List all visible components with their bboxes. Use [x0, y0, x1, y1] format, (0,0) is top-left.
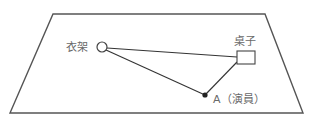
coat-rack-marker — [97, 42, 107, 52]
table-marker — [237, 51, 255, 64]
coat-rack-label: 衣架 — [66, 40, 88, 54]
actor-label: A（演員） — [213, 92, 265, 106]
stage-diagram: 衣架 桌子 A（演員） — [0, 0, 316, 123]
actor-marker — [202, 92, 207, 97]
table-label: 桌子 — [234, 35, 256, 48]
